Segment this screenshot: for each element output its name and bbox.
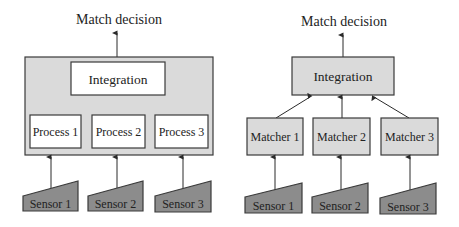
- right-integration-label: Integration: [313, 69, 372, 84]
- right-diagram: Match decision Integration Matcher 1 Mat…: [245, 14, 438, 214]
- right-matcher-3-label: Matcher 3: [385, 130, 434, 144]
- right-matcher-1: Matcher 1: [247, 118, 303, 155]
- left-sensor-1-label: Sensor 1: [30, 197, 72, 211]
- right-matcher-3: Matcher 3: [381, 118, 438, 155]
- right-sensor-1-label: Sensor 1: [253, 199, 295, 213]
- left-process-3-label: Process 3: [159, 125, 205, 139]
- left-process-2: Process 2: [92, 115, 145, 148]
- right-matcher-2: Matcher 2: [313, 118, 370, 155]
- right-matcher-1-to-integration-arrow: [276, 97, 310, 118]
- left-sensor-2: Sensor 2: [88, 181, 143, 211]
- right-sensor-3-label: Sensor 3: [387, 200, 429, 214]
- left-process-1-label: Process 1: [33, 125, 79, 139]
- left-integration-label: Integration: [88, 72, 147, 87]
- left-process-3: Process 3: [155, 115, 208, 148]
- right-matcher-3-to-integration-arrow: [374, 97, 409, 118]
- left-process-1: Process 1: [30, 115, 81, 148]
- left-process-2-label: Process 2: [96, 125, 142, 139]
- diagram-canvas: Match decision Integration Process 1 Pro…: [0, 0, 459, 227]
- right-sensor-2: Sensor 2: [312, 183, 368, 213]
- right-sensor-1: Sensor 1: [245, 183, 302, 213]
- right-sensor-2-label: Sensor 2: [319, 199, 361, 213]
- right-matcher-1-label: Matcher 1: [251, 130, 300, 144]
- left-sensor-3-label: Sensor 3: [162, 197, 204, 211]
- left-diagram: Match decision Integration Process 1 Pro…: [23, 12, 213, 212]
- left-output-label: Match decision: [76, 12, 162, 27]
- right-output-label: Match decision: [301, 14, 387, 29]
- right-matcher-2-label: Matcher 2: [317, 130, 366, 144]
- left-sensor-2-label: Sensor 2: [95, 197, 137, 211]
- right-sensor-3: Sensor 3: [380, 183, 436, 214]
